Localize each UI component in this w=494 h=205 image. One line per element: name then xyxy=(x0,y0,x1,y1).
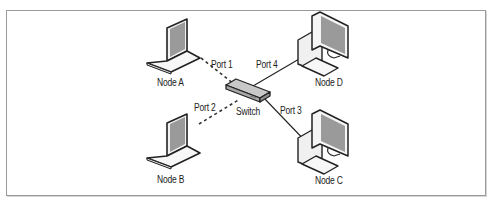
node-b-label: Node B xyxy=(157,174,184,185)
desktop-icon-node-d xyxy=(298,12,348,76)
port-2-label: Port 2 xyxy=(194,102,216,113)
port-3-label: Port 3 xyxy=(280,105,302,116)
node-a-label: Node A xyxy=(157,77,184,88)
laptop-icon-node-a xyxy=(147,19,200,74)
node-c-label: Node C xyxy=(315,175,343,186)
switch-icon xyxy=(226,79,270,102)
node-d-label: Node D xyxy=(315,77,343,88)
network-diagram xyxy=(0,0,494,205)
laptop-icon-node-b xyxy=(147,114,200,169)
port-4-label: Port 4 xyxy=(256,59,278,70)
switch-label: Switch xyxy=(236,106,260,117)
port-1-label: Port 1 xyxy=(211,59,233,70)
desktop-icon-node-c xyxy=(298,110,348,174)
